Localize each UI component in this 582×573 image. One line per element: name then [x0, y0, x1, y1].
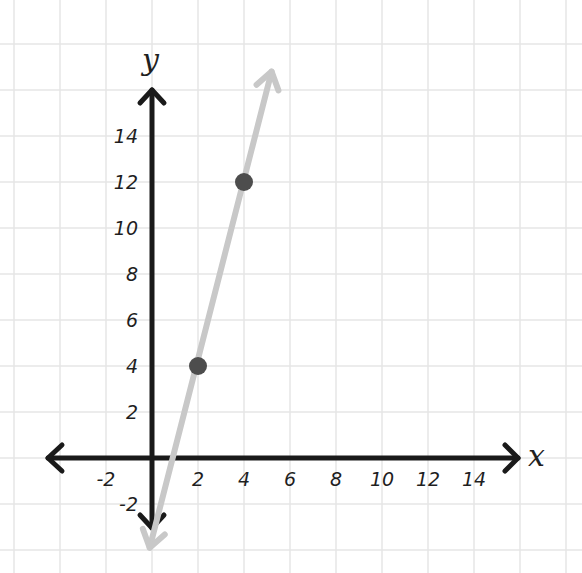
x-tick-label: 6 — [284, 468, 296, 490]
x-tick-label: 10 — [370, 468, 394, 490]
data-point — [235, 173, 253, 191]
y-tick-label: 6 — [126, 309, 138, 331]
graph-line — [150, 72, 272, 548]
y-axis-label: y — [140, 42, 160, 77]
x-tick-label: -2 — [97, 468, 116, 490]
x-tick-label: 12 — [416, 468, 440, 490]
data-point — [189, 357, 207, 375]
x-tick-label: 4 — [238, 468, 250, 490]
x-tick-label: 14 — [462, 468, 486, 490]
y-tick-label: 14 — [114, 125, 138, 147]
x-axis-label: x — [528, 438, 545, 473]
x-tick-label: 2 — [192, 468, 204, 490]
y-tick-label: 8 — [126, 263, 138, 285]
x-tick-label: 8 — [330, 468, 342, 490]
y-tick-label: 2 — [126, 401, 138, 423]
x-tick-labels: -22468101214 — [97, 468, 487, 490]
y-tick-label: 4 — [126, 355, 138, 377]
data-series — [143, 72, 279, 548]
y-tick-label: -2 — [119, 493, 138, 515]
axes — [48, 90, 518, 528]
coordinate-plane: -22468101214 -22468101214 x y — [0, 0, 582, 573]
y-tick-label: 12 — [114, 171, 138, 193]
y-tick-label: 10 — [114, 217, 138, 239]
